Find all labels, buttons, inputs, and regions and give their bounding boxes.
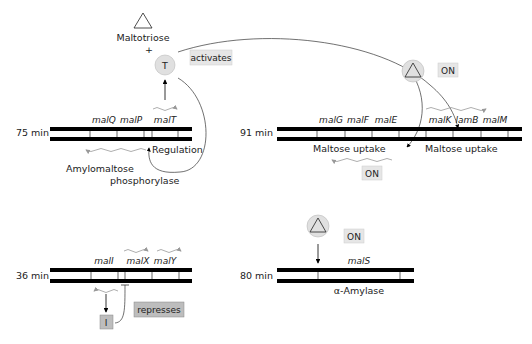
dna-strand-bottom bbox=[277, 279, 414, 283]
mrna-malK-operon-wave bbox=[426, 108, 486, 111]
gene-malM: malM bbox=[483, 115, 508, 125]
dna-strand-top bbox=[277, 268, 414, 272]
locus-position: 75 min bbox=[16, 127, 49, 138]
activator-symbol: T bbox=[161, 60, 168, 71]
mrna-malE-operon-wave bbox=[332, 159, 392, 162]
regulation-label: Regulation bbox=[152, 144, 203, 155]
maltose-inducer-bound bbox=[402, 60, 424, 82]
gene-malE: malE bbox=[375, 115, 398, 125]
gene-malK: malK bbox=[429, 115, 453, 125]
gene-malY: malY bbox=[154, 256, 178, 266]
maltotriose-label: Maltotriose bbox=[116, 32, 169, 43]
svg-text:represses: represses bbox=[137, 305, 181, 315]
gene-malS: malS bbox=[348, 256, 371, 266]
maltose-uptake-label-left: Maltose uptake bbox=[313, 143, 386, 154]
gene-malG: malG bbox=[319, 115, 343, 125]
gene-lamB: lamB bbox=[456, 115, 479, 125]
dna-strand-top bbox=[50, 268, 192, 272]
gene-malI: malI bbox=[94, 256, 114, 266]
repression-line bbox=[115, 285, 125, 323]
locus-position: 36 min bbox=[16, 270, 49, 281]
mrna-malPQ-wave bbox=[86, 149, 146, 152]
dna-strand-bottom bbox=[277, 137, 522, 141]
gene-malX: malX bbox=[127, 256, 151, 266]
alpha-amylase-label: α-Amylase bbox=[334, 285, 384, 296]
on-badge-80min: ON bbox=[344, 229, 364, 243]
maltotriose-inducer: Maltotriose + bbox=[116, 13, 169, 55]
dna-strand-bottom bbox=[50, 279, 192, 283]
maltose-uptake-label-right: Maltose uptake bbox=[425, 143, 498, 154]
gene-malF: malF bbox=[347, 115, 370, 125]
mrna-malI-wave bbox=[94, 290, 118, 293]
locus-80min: 80 min ON malS α-Amylase bbox=[240, 215, 414, 296]
mal-regulon-diagram: Maltotriose + T activates 75 min malQ ma… bbox=[0, 0, 532, 344]
on-badge-top: ON bbox=[438, 63, 458, 77]
maltose-inducer-bound bbox=[307, 215, 329, 237]
on-badge-bottom: ON bbox=[362, 166, 382, 180]
mrna-malT-wave bbox=[153, 108, 177, 111]
plus-sign: + bbox=[145, 44, 153, 55]
svg-text:activates: activates bbox=[190, 53, 231, 63]
amylomaltose-label: Amylomaltose bbox=[66, 163, 134, 174]
dna-strand-bottom bbox=[50, 137, 192, 141]
svg-text:ON: ON bbox=[441, 66, 455, 76]
locus-position: 80 min bbox=[240, 270, 273, 281]
activator-malT-protein: T bbox=[155, 55, 175, 75]
repressor-malI-protein: I bbox=[100, 315, 113, 329]
autoregulation-arrow bbox=[149, 78, 206, 172]
svg-text:I: I bbox=[105, 318, 108, 328]
locus-91min: 91 min ON malG malF malE malK lamB malM bbox=[240, 60, 522, 180]
locus-36min: 36 min malI malX malY I represses bbox=[16, 250, 192, 330]
phosphorylase-label: phosphorylase bbox=[110, 175, 180, 186]
dna-strand-top bbox=[50, 127, 192, 131]
dna-strand-top bbox=[277, 127, 522, 131]
mrna-malY-wave bbox=[157, 250, 181, 253]
svg-text:ON: ON bbox=[365, 169, 379, 179]
gene-malQ: malQ bbox=[92, 115, 116, 125]
represses-badge: represses bbox=[134, 302, 184, 317]
locus-position: 91 min bbox=[240, 127, 273, 138]
locus-75min: 75 min malQ malP malT Regulation Amyloma… bbox=[16, 108, 203, 187]
mrna-malX-wave bbox=[124, 250, 148, 253]
maltotriose-triangle-icon bbox=[134, 13, 152, 28]
activates-badge: activates bbox=[190, 50, 232, 65]
gene-malT: malT bbox=[154, 115, 178, 125]
svg-text:ON: ON bbox=[347, 232, 361, 242]
gene-malP: malP bbox=[120, 115, 143, 125]
